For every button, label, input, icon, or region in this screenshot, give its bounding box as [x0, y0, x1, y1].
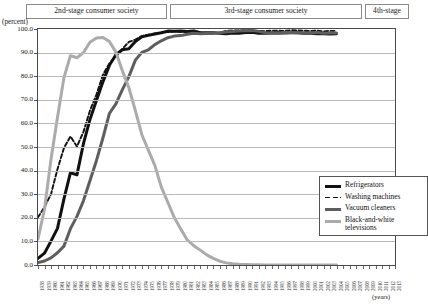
x-tick-label: 2002: [326, 281, 331, 291]
gridline: [38, 100, 395, 101]
x-tick-label: 1969: [111, 281, 116, 291]
x-tick-mark: [317, 266, 318, 269]
legend-swatch-icon: [325, 194, 341, 203]
x-tick-mark: [194, 266, 195, 269]
legend-item: Refrigerators: [325, 181, 423, 191]
gridline: [38, 123, 395, 124]
gridline: [38, 171, 395, 172]
y-tick-label: 60.0: [0, 120, 33, 127]
x-tick-mark: [213, 266, 214, 269]
x-tick-label: 1975: [150, 281, 155, 291]
x-tick-label: 2005: [345, 281, 350, 291]
x-tick-mark: [181, 266, 182, 269]
x-tick-label: 1985: [215, 281, 220, 291]
legend-swatch-icon: [325, 205, 341, 214]
x-tick-label: 1983: [202, 281, 207, 291]
y-tick-label: 90.0: [0, 49, 33, 56]
x-tick-mark: [116, 266, 117, 269]
x-tick-mark: [83, 266, 84, 269]
x-tick-mark: [239, 266, 240, 269]
x-tick-mark: [369, 266, 370, 269]
x-tick-label: 1962: [66, 281, 71, 291]
x-tick-mark: [291, 266, 292, 269]
x-tick-label: 1959: [47, 281, 52, 291]
x-tick-label: 1995: [280, 281, 285, 291]
x-tick-label: 1989: [241, 281, 246, 291]
chart-legend: RefrigeratorsWashing machinesVacuum clea…: [319, 176, 428, 236]
x-tick-label: 2003: [332, 281, 337, 291]
x-tick-label: 1991: [254, 281, 259, 291]
x-axis-unit-label: (years): [372, 293, 390, 300]
x-tick-mark: [96, 266, 97, 269]
x-tick-label: 1979: [176, 281, 181, 291]
x-tick-mark: [90, 266, 91, 269]
stage-label-2nd: 2nd-stage consumer society: [26, 4, 167, 19]
x-tick-mark: [155, 266, 156, 269]
legend-label: Refrigerators: [345, 181, 384, 190]
x-tick-mark: [356, 266, 357, 269]
x-tick-label: 2011: [384, 281, 389, 291]
x-tick-label: 1961: [60, 281, 65, 291]
legend-item: Vacuum cleaners: [325, 204, 423, 214]
x-tick-mark: [252, 266, 253, 269]
x-tick-label: 1998: [300, 281, 305, 291]
x-tick-label: 1993: [267, 281, 272, 291]
x-tick-mark: [71, 266, 72, 269]
x-tick-mark: [148, 266, 149, 269]
x-tick-label: 1977: [163, 281, 168, 291]
x-tick-mark: [103, 266, 104, 269]
legend-label: Black-and-white televisions: [345, 216, 423, 233]
x-tick-mark: [168, 266, 169, 269]
x-tick-mark: [207, 266, 208, 269]
x-tick-mark: [38, 266, 39, 269]
x-tick-label: 1963: [73, 281, 78, 291]
x-tick-label: 1987: [228, 281, 233, 291]
legend-swatch-icon: [325, 217, 341, 226]
plot-area: RefrigeratorsWashing machinesVacuum clea…: [37, 28, 396, 266]
x-tick-mark: [233, 266, 234, 269]
x-tick-label: 2007: [358, 281, 363, 291]
stage-label-4th: 4th-stage: [365, 4, 409, 19]
x-tick-mark: [129, 266, 130, 269]
x-tick-label: 2010: [378, 281, 383, 291]
x-tick-mark: [58, 266, 59, 269]
x-tick-mark: [122, 266, 123, 269]
x-tick-mark: [343, 266, 344, 269]
x-tick-mark: [311, 266, 312, 269]
x-tick-mark: [142, 266, 143, 269]
x-tick-mark: [45, 266, 46, 269]
x-tick-mark: [226, 266, 227, 269]
x-tick-mark: [64, 266, 65, 269]
y-tick-label: 70.0: [0, 96, 33, 103]
x-tick-mark: [350, 266, 351, 269]
x-tick-label: 1997: [293, 281, 298, 291]
legend-item: Washing machines: [325, 193, 423, 203]
x-tick-label: 2013: [397, 281, 402, 291]
x-tick-mark: [330, 266, 331, 269]
x-tick-mark: [220, 266, 221, 269]
x-tick-mark: [51, 266, 52, 269]
x-tick-mark: [382, 266, 383, 269]
x-tick-label: 2008: [365, 281, 370, 291]
x-tick-mark: [259, 266, 260, 269]
x-tick-label: 1999: [306, 281, 311, 291]
x-tick-mark: [363, 266, 364, 269]
x-tick-label: 2006: [352, 281, 357, 291]
x-tick-mark: [298, 266, 299, 269]
x-tick-mark: [174, 266, 175, 269]
y-tick-label: 10.0: [0, 238, 33, 245]
x-tick-mark: [337, 266, 338, 269]
y-tick-label: 100.0: [0, 26, 33, 33]
x-tick-mark: [304, 266, 305, 269]
legend-swatch-icon: [325, 182, 341, 191]
y-tick-label: 50.0: [0, 144, 33, 151]
x-tick-mark: [278, 266, 279, 269]
x-tick-label: 1967: [98, 281, 103, 291]
legend-item: Black-and-white televisions: [325, 216, 423, 233]
y-tick-label: 0.0: [0, 262, 33, 269]
x-tick-mark: [200, 266, 201, 269]
y-tick-label: 20.0: [0, 214, 33, 221]
gridline: [38, 147, 395, 148]
x-tick-label: 1958: [40, 281, 45, 291]
x-tick-mark: [395, 266, 396, 269]
